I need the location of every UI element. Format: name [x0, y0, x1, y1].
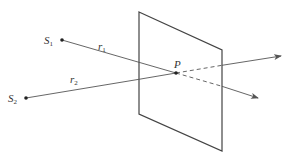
label-S2: S2 — [8, 92, 18, 106]
diagram-canvas: S1 S2 r1 r2 P — [0, 0, 290, 164]
ray-r2-to-P — [139, 73, 176, 79]
label-r1: r1 — [98, 40, 106, 54]
source-S1-dot — [60, 38, 64, 42]
ray-r2-solid-before-plane — [26, 79, 139, 98]
label-r2: r2 — [70, 73, 78, 87]
label-S1: S1 — [44, 34, 54, 48]
interference-diagram: S1 S2 r1 r2 P — [0, 0, 290, 164]
screen-plane — [139, 12, 222, 151]
ray-r1-dashed-behind-plane — [176, 73, 222, 86]
ray-r2-exit-arrow — [222, 56, 281, 65]
ray-r1-exit-arrow — [222, 86, 258, 98]
ray-r2-dashed-behind-plane — [176, 65, 222, 73]
point-P-dot — [174, 71, 178, 75]
source-S2-dot — [24, 96, 28, 100]
label-P: P — [173, 58, 181, 70]
ray-r1-to-P — [139, 62, 176, 73]
